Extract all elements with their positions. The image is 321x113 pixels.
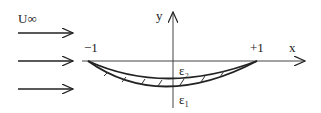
thin-airfoil-diagram: U∞ x y −1 +1 ε₂ ε₁ — [0, 0, 321, 113]
upper-surface-label: ε₂ — [179, 63, 189, 78]
leading-edge-label: −1 — [84, 40, 98, 55]
freestream-arrows — [18, 33, 73, 89]
x-axis-label: x — [289, 40, 296, 55]
y-axis-label: y — [156, 8, 163, 23]
freestream-label: U∞ — [18, 11, 37, 26]
trailing-edge-label: +1 — [250, 40, 264, 55]
lower-surface-label: ε₁ — [179, 92, 189, 107]
